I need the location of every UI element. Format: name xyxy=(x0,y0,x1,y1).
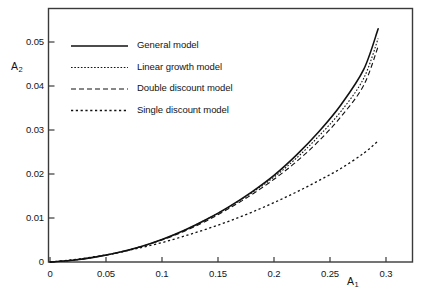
legend-label-3: Single discount model xyxy=(137,104,229,115)
y-tick-label-1: 0.01 xyxy=(8,212,44,223)
legend-label-2: Double discount model xyxy=(137,82,233,93)
y-axis-title: A2 xyxy=(11,60,22,72)
x-tick-label-1: 0.05 xyxy=(86,268,126,279)
y-tick-label-2: 0.02 xyxy=(8,168,44,179)
x-tick-label-5: 0.25 xyxy=(310,268,350,279)
x-tick-label-2: 0.1 xyxy=(142,268,182,279)
x-tick-label-3: 0.15 xyxy=(198,268,238,279)
y-axis-ticks xyxy=(49,42,55,262)
legend-sample-lines xyxy=(71,46,128,111)
series-line-3 xyxy=(50,141,378,262)
x-axis-ticks xyxy=(50,257,386,262)
y-tick-label-5: 0.05 xyxy=(8,36,44,47)
series-line-1 xyxy=(50,38,378,262)
series-line-2 xyxy=(50,46,378,262)
plot-area xyxy=(0,0,424,299)
x-tick-label-6: 0.3 xyxy=(366,268,406,279)
x-tick-label-4: 0.2 xyxy=(254,268,294,279)
y-tick-label-0: 0 xyxy=(8,256,44,267)
chart-figure: 00.010.020.030.040.05 00.050.10.150.20.2… xyxy=(0,0,424,299)
x-tick-label-0: 0 xyxy=(30,268,70,279)
x-axis-title: A1 xyxy=(347,275,358,287)
y-tick-label-4: 0.04 xyxy=(8,80,44,91)
legend-label-1: Linear growth model xyxy=(137,61,222,72)
y-tick-label-3: 0.03 xyxy=(8,124,44,135)
legend-label-0: General model xyxy=(137,39,199,50)
